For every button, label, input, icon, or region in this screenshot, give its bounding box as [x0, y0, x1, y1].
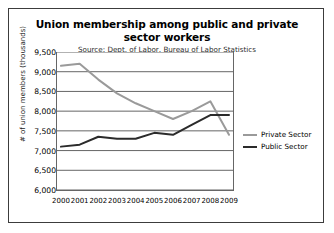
y-tick-label: 7,000: [16, 146, 56, 155]
x-tick-label: 2000: [52, 197, 70, 205]
x-tick-label: 2004: [127, 197, 145, 205]
x-tick-label: 2008: [201, 197, 219, 205]
series-lines: [61, 64, 229, 147]
chart-legend: Private SectorPublic Sector: [243, 130, 327, 154]
gridlines: [57, 52, 233, 190]
y-tick-label: 7,500: [16, 126, 56, 135]
chart-title: Union membership among public and privat…: [27, 18, 307, 43]
y-axis-ticks: 9,5009,0008,5008,0007,5007,0006,5006,000: [12, 0, 56, 215]
x-tick-label: 2005: [145, 197, 163, 205]
y-tick-label: 8,000: [16, 107, 56, 116]
x-tick-label: 2007: [183, 197, 201, 205]
x-tick-label: 2009: [220, 197, 238, 205]
chart-svg: [57, 52, 233, 190]
legend-item[interactable]: Public Sector: [243, 142, 327, 151]
y-tick-label: 6,000: [16, 186, 56, 195]
x-tick-label: 2002: [89, 197, 107, 205]
legend-item[interactable]: Private Sector: [243, 130, 327, 139]
legend-swatch-icon: [243, 134, 257, 136]
x-tick-label: 2006: [164, 197, 182, 205]
x-tick-label: 2001: [71, 197, 89, 205]
x-axis-ticks: 2000200120022003200420052006200720082009: [0, 197, 334, 211]
y-tick-label: 6,500: [16, 166, 56, 175]
legend-label: Public Sector: [261, 142, 308, 151]
y-tick-label: 8,500: [16, 87, 56, 96]
series-line: [61, 64, 229, 135]
y-tick-label: 9,500: [16, 48, 56, 57]
plot-area: [56, 52, 234, 191]
y-tick-label: 9,000: [16, 67, 56, 76]
x-tick-label: 2003: [108, 197, 126, 205]
legend-label: Private Sector: [261, 130, 311, 139]
legend-swatch-icon: [243, 146, 257, 148]
